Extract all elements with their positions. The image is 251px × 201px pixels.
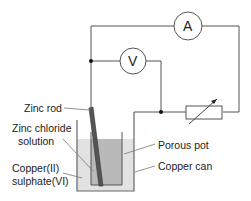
- label-zinc-rod: Zinc rod: [24, 102, 62, 114]
- label-porous-pot: Porous pot: [158, 139, 209, 151]
- label-copper-sulphate-1: Copper(II): [12, 162, 59, 174]
- label-zinc-chloride-2: solution: [18, 135, 54, 147]
- meter-label-v: V: [128, 54, 137, 68]
- junction-dot: [159, 110, 163, 114]
- label-copper-can: Copper can: [158, 160, 212, 172]
- label-copper-sulphate-2: sulphate(VI): [12, 175, 69, 187]
- label-zinc-chloride-1: Zinc chloride: [12, 122, 72, 134]
- meter-label-a: A: [183, 19, 192, 33]
- junction-dot: [89, 59, 93, 63]
- variable-resistor-icon: [186, 106, 222, 119]
